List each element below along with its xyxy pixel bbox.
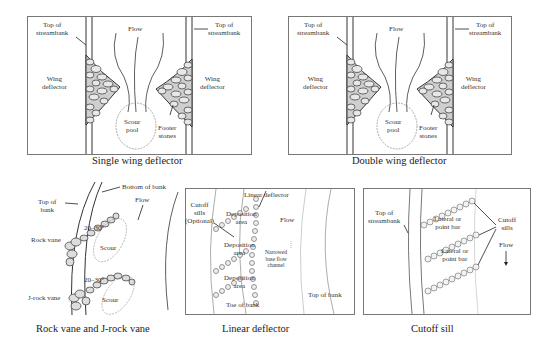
label-top-of-streambank-left: Top of streambank [297,21,329,37]
panel-linear-deflector: Linear deflector Cutoff sills (Optional)… [185,188,355,315]
label-footer-stones: Footer stones [158,124,176,140]
label-toe-of-bank: Toe of bank [226,301,259,309]
label-cutoff-sills-optional: Cutoff sills (Optional) [185,201,214,225]
label-wing-deflector-left: Wing deflector [303,75,328,91]
label-flow: Flow [128,25,142,33]
label-top-of-streambank: Top of streambank [368,209,400,225]
label-top-of-streambank-right: Top of streambank [208,21,240,37]
label-cutoff-sills: Cutoff sills [498,216,516,232]
label-lateral-point-bar-1: Lateral or point bar [434,215,461,231]
label-angle-2: 20–30° [84,276,104,284]
label-j-rock-vane: J-rock vane [28,294,60,302]
caption-cutoff-sill: Cutoff sill [411,323,454,334]
label-scour-pool: Scour pool [385,118,401,134]
label-flow: Flow [389,25,403,33]
label-bottom-of-bank: Bottom of bank [122,183,166,191]
caption-double-wing-deflector: Double wing deflector [352,155,446,166]
label-top-of-bank: Top of bank [38,198,56,214]
label-deposition-area-2: Deposition area [224,241,255,257]
panel-rock-vane: Top of bank Bottom of bank Flow Rock van… [0,170,185,315]
label-angle-1: 20–30° [84,224,104,232]
label-top-of-streambank-left: Top of streambank [36,21,68,37]
label-deposition-area-3: Deposition area [224,274,255,290]
label-linear-deflector: Linear deflector [244,191,289,199]
label-scour-2: Scour [102,296,118,304]
caption-linear-deflector: Linear deflector [222,323,289,334]
caption-rock-vane: Rock vane and J-rock vane [36,323,150,334]
label-rock-vane: Rock vane [31,236,61,244]
label-flow: Flow [135,196,149,204]
label-top-of-bank: Top of bank [308,291,342,299]
label-scour-pool: Scour pool [124,118,140,134]
label-scour-1: Scour [100,244,116,252]
panel-cutoff-sill: Top of streambank Lateral or point bar L… [363,188,531,315]
panel-double-wing-deflector: Top of streambank Top of streambank Flow… [288,16,512,155]
label-footer-stones: Footer stones [419,124,437,140]
label-wing-deflector-right: Wing deflector [200,75,225,91]
label-top-of-streambank-right: Top of streambank [469,21,501,37]
label-flow: Flow [280,216,294,224]
label-flow: Flow [499,241,513,249]
label-wing-deflector-right: Wing deflector [461,75,486,91]
caption-single-wing-deflector: Single wing deflector [92,155,182,166]
label-lateral-point-bar-2: Lateral or point bar [441,247,468,263]
label-deposition-area-1: Deposition area [226,210,257,226]
panel-single-wing-deflector: Top of streambank Top of streambank Flow… [27,16,252,155]
label-wing-deflector-left: Wing deflector [42,75,67,91]
label-narrowed-channel: Narrowed base flow channel [265,249,287,269]
